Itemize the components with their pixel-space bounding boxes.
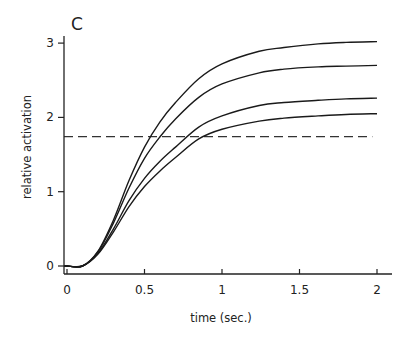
x-tick-label: 2: [373, 283, 381, 297]
y-tick-label: 2: [46, 110, 54, 124]
y-axis-title: relative activation: [20, 95, 34, 199]
y-tick-label: 3: [46, 36, 54, 50]
y-tick-label: 0: [46, 259, 54, 273]
curves-group: [64, 42, 377, 267]
y-ticks: 0123: [46, 36, 64, 273]
x-tick-label: 0.5: [135, 283, 154, 297]
x-tick-label: 1.5: [290, 283, 309, 297]
x-ticks: 00.511.52: [63, 269, 381, 297]
x-axis-title: time (sec.): [190, 311, 252, 325]
plot-area: [64, 42, 377, 267]
x-tick-label: 1: [218, 283, 226, 297]
y-tick-label: 1: [46, 185, 54, 199]
activation-chart: C 00.511.52 0123 time (sec.) relative ac…: [0, 0, 410, 342]
activation-curve-curve-3: [64, 98, 377, 267]
panel-label: C: [71, 14, 83, 34]
x-tick-label: 0: [63, 283, 71, 297]
